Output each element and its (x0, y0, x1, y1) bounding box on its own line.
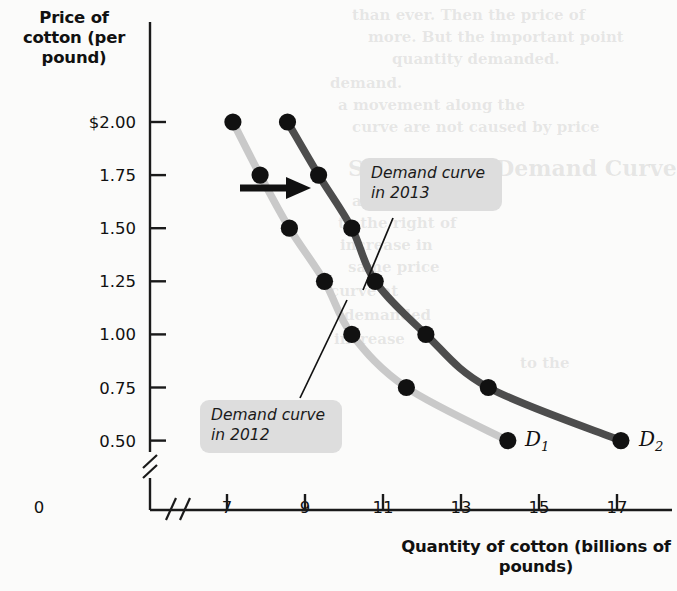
data-point (224, 113, 241, 130)
curve-label-d1: D1 (525, 427, 549, 454)
demand-curve-figure: than ever. Then the price ofmore. But th… (0, 0, 677, 591)
data-point (417, 326, 434, 343)
data-point (281, 220, 298, 237)
callout-demand-curve-2012: Demand curve in 2012 (200, 400, 342, 453)
data-point (398, 379, 415, 396)
curve-label-d1-subscript: 1 (541, 439, 549, 454)
curve-label-d2-subscript: 2 (655, 439, 663, 454)
data-point (343, 326, 360, 343)
curve-label-d1-text: D (525, 427, 541, 451)
data-point (279, 113, 296, 130)
rightward-shift-arrow (240, 177, 311, 199)
callout-leader-line-2012 (300, 300, 347, 398)
data-point (316, 273, 333, 290)
plot-area (0, 0, 677, 591)
data-point (499, 432, 516, 449)
callout-demand-curve-2013: Demand curve in 2013 (360, 158, 502, 211)
data-point (310, 167, 327, 184)
curve-label-d2-text: D (639, 427, 655, 451)
curve-label-d2: D2 (639, 427, 663, 454)
data-point (343, 220, 360, 237)
data-point (612, 432, 629, 449)
data-point (480, 379, 497, 396)
data-point (252, 167, 269, 184)
y-axis-break-mark (143, 455, 157, 478)
